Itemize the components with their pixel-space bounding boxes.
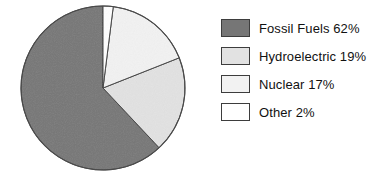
- pie-chart-plot-area: [0, 0, 210, 174]
- legend-swatch-nuclear: [221, 75, 250, 93]
- legend-label-fossil-fuels: Fossil Fuels 62%: [259, 21, 360, 36]
- pie-slice-group: [21, 6, 185, 170]
- legend-item-fossil-fuels: Fossil Fuels 62%: [221, 18, 375, 38]
- pie-chart-screenshot: Fossil Fuels 62% Hydroelectric 19% Nucle…: [0, 0, 375, 174]
- legend-item-nuclear: Nuclear 17%: [221, 74, 375, 94]
- legend-label-nuclear: Nuclear 17%: [259, 77, 335, 92]
- chart-legend: Fossil Fuels 62% Hydroelectric 19% Nucle…: [221, 18, 375, 130]
- legend-swatch-hydroelectric: [221, 47, 250, 65]
- legend-swatch-fossil-fuels: [221, 19, 250, 37]
- legend-label-hydroelectric: Hydroelectric 19%: [259, 49, 366, 64]
- legend-item-hydroelectric: Hydroelectric 19%: [221, 46, 375, 66]
- legend-item-other: Other 2%: [221, 102, 375, 122]
- legend-label-other: Other 2%: [259, 105, 315, 120]
- pie-chart-svg: [0, 0, 210, 174]
- legend-swatch-other: [221, 103, 250, 121]
